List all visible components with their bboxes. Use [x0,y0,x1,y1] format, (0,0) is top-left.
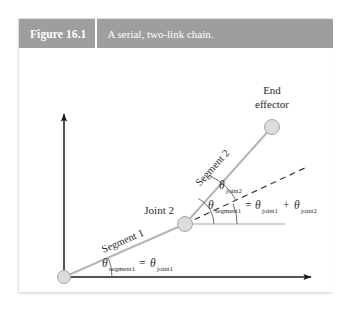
figure-caption-text: A serial, two-link chain. [97,28,213,40]
joint-1-marker [58,271,71,284]
diagram-area: End effector Joint 2 Joint 1 Segment 1 S… [19,48,333,292]
segment-2-label: Segment 2 [193,147,231,188]
lower-eq-theta-rhs-symbol: θ [150,257,156,269]
joint-2-marker [178,217,193,232]
lower-eq-theta-rhs-subscript: joint1 [156,265,173,272]
figure-card: Figure 16.1 A serial, two-link chain. [18,18,332,293]
figure-number-label: Figure 16.1 [19,28,95,40]
end-effector-marker [265,120,280,135]
two-link-chain-diagram: End effector Joint 2 Joint 1 Segment 1 S… [19,48,333,292]
theta-joint2-symbol: θ [219,179,225,191]
lower-eq-equals-sign: = [139,257,146,269]
upper-eq-plus-sign: + [283,199,290,211]
end-effector-label-line2: effector [255,98,289,110]
joint-2-label: Joint 2 [144,204,174,216]
theta-joint2-subscript: joint2 [225,187,242,194]
upper-eq-theta-lhs-subscript: segment1 [215,207,241,214]
upper-eq-theta-lhs-symbol: θ [208,199,214,211]
lower-eq-theta-lhs-symbol: θ [102,257,108,269]
upper-eq-theta-rhs2-subscript: joint2 [300,207,317,214]
upper-eq-theta-rhs1-symbol: θ [255,199,261,211]
theta-segment1-lower-equation: θ segment1 = θ joint1 [102,257,173,272]
upper-eq-theta-rhs1-subscript: joint1 [261,207,278,214]
joint-1-label: Joint 1 [45,290,75,292]
upper-eq-theta-rhs2-symbol: θ [294,199,300,211]
theta-segment1-upper-equation: θ segment1 = θ joint1 + θ joint2 [208,199,317,214]
theta-joint2-annotation: θ joint2 [219,179,242,194]
end-effector-label-line1: End [263,84,281,96]
figure-header-bar: Figure 16.1 A serial, two-link chain. [19,19,333,48]
upper-eq-equals-sign: = [245,199,252,211]
lower-eq-theta-lhs-subscript: segment1 [109,265,135,272]
